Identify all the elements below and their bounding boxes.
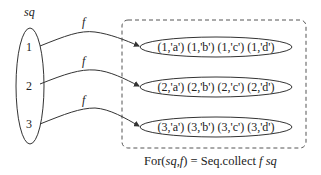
result-row-2: (2,'a') (2,'b') (2,'c') (2,'d') [136,81,296,93]
caption-arg3: sq [266,154,277,168]
arrow-2 [40,70,139,86]
source-set-label: sq [24,6,35,18]
source-element-2: 2 [26,80,32,92]
source-element-1: 1 [26,41,32,53]
result-row-1: (1,'a') (1,'b') (1,'c') (1,'d') [136,41,296,53]
source-element-3: 3 [26,118,32,130]
arrow-1-label: f [82,16,85,28]
caption: For(sq,f) = Seq.collect f sq [144,155,277,168]
arrow-1 [40,32,139,46]
caption-prefix: For( [144,154,166,168]
arrow-3-label: f [82,94,85,106]
result-row-3: (3,'a') (3,'b') (3,'c') (3,'d') [136,121,296,133]
caption-arg1: sq [166,154,177,168]
arrow-3 [40,108,139,126]
caption-mid: ) = Seq.collect [183,154,259,168]
arrow-2-label: f [82,55,85,67]
